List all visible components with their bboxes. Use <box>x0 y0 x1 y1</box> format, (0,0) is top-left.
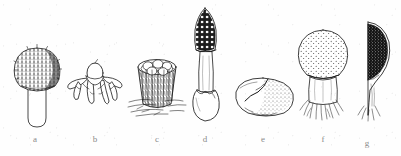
figure-label-a: a <box>28 134 42 144</box>
figure-f-pear-shaped-puffball <box>298 30 347 120</box>
figure-b-earthstar <box>68 60 122 104</box>
figure-plate: a b c d e f g <box>0 0 401 156</box>
figure-g-puffball-section <box>358 22 390 121</box>
figure-label-b: b <box>88 134 102 144</box>
figure-label-d: d <box>198 134 212 144</box>
figure-a-spiny-puffball <box>14 45 62 128</box>
figure-label-g: g <box>360 138 374 148</box>
figure-e-false-truffle <box>236 78 294 116</box>
plate-drawing <box>0 0 401 156</box>
figure-c-birds-nest-fungus <box>128 60 186 117</box>
figure-d-stinkhorn <box>193 8 219 121</box>
figure-label-e: e <box>256 134 270 144</box>
figure-label-f: f <box>316 134 330 144</box>
figure-label-c: c <box>150 134 164 144</box>
